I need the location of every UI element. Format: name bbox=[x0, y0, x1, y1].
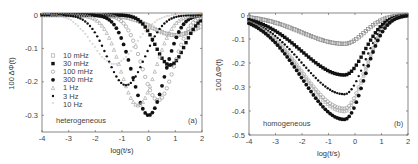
y-tick-label: 0 bbox=[34, 11, 38, 20]
x-tick-label: -1 bbox=[119, 134, 126, 143]
x-tick-label: 0 bbox=[353, 137, 357, 146]
y-axis-label: 100 ΔΦ(t) bbox=[214, 58, 223, 91]
x-tick-label: 1 bbox=[379, 137, 383, 146]
chart-panel-b: -4-3-2-10120-0.1-0.2-0.3-0.4-0.5log(t/s)… bbox=[214, 11, 410, 159]
svg-text:*: * bbox=[52, 101, 55, 107]
y-tick-label: -0.4 bbox=[232, 107, 245, 116]
y-axis-label: 100 ΔΦ(t) bbox=[7, 57, 16, 90]
panel-label: (b) bbox=[394, 119, 404, 128]
chart-panel-a: -4-3-2-10120-0.1-0.2-0.3log(t/s)100 ΔΦ(t… bbox=[7, 11, 204, 156]
figure: -4-3-2-10120-0.1-0.2-0.3log(t/s)100 ΔΦ(t… bbox=[0, 0, 418, 164]
y-tick-label: -0.1 bbox=[232, 35, 245, 44]
y-tick-label: -0.5 bbox=[232, 131, 245, 140]
x-tick-label: 1 bbox=[173, 134, 177, 143]
x-tick-label: -4 bbox=[246, 137, 253, 146]
y-tick-label: -0.3 bbox=[232, 83, 245, 92]
legend-entry: 10 Hz bbox=[63, 100, 83, 109]
x-tick-label: -1 bbox=[325, 137, 332, 146]
x-tick-label: -3 bbox=[272, 137, 279, 146]
y-tick-label: -0.1 bbox=[25, 44, 38, 53]
panel-label: (a) bbox=[188, 116, 198, 125]
x-tick-label: -4 bbox=[39, 134, 46, 143]
x-axis-label: log(t/s) bbox=[317, 149, 340, 158]
legend: 10 mHz30 mHz100 mHz300 mHz1 Hz3 Hz*10 Hz bbox=[51, 51, 93, 109]
x-tick-label: 2 bbox=[200, 134, 204, 143]
y-tick-label: -0.2 bbox=[25, 77, 38, 86]
y-tick-label: -0.2 bbox=[232, 59, 245, 68]
x-tick-label: -2 bbox=[92, 134, 99, 143]
x-tick-label: 2 bbox=[406, 137, 410, 146]
regime-annotation: heterogeneous bbox=[56, 116, 106, 125]
x-tick-label: -2 bbox=[299, 137, 306, 146]
y-tick-label: 0 bbox=[241, 11, 245, 20]
x-axis-label: log(t/s) bbox=[111, 146, 134, 155]
x-tick-label: 0 bbox=[147, 134, 151, 143]
y-tick-label: -0.3 bbox=[25, 111, 38, 120]
x-tick-label: -3 bbox=[65, 134, 72, 143]
regime-annotation: homogeneous bbox=[263, 119, 311, 128]
